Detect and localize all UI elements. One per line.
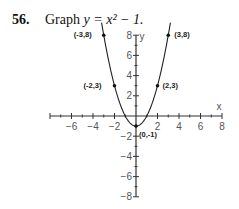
parabola-chart: −6−4−224688642−2−4−6−8xy(-3,8)(3,8)(-2,3… <box>0 0 239 209</box>
point-label: (0,-1) <box>139 130 157 139</box>
y-tick-label: −4 <box>121 151 133 162</box>
x-tick-label: −2 <box>109 121 121 132</box>
y-tick-label: 2 <box>126 90 132 101</box>
x-axis-label: x <box>217 101 222 112</box>
point-label: (2,3) <box>163 81 179 90</box>
x-tick-label: 6 <box>198 121 204 132</box>
x-tick-label: 8 <box>219 121 225 132</box>
data-point <box>113 84 117 88</box>
data-point <box>102 33 106 37</box>
data-point <box>134 124 138 128</box>
data-point <box>156 84 160 88</box>
point-label: (-3,8) <box>74 30 92 39</box>
x-tick-label: 4 <box>176 121 182 132</box>
y-tick-label: −6 <box>121 171 133 182</box>
y-tick-label: 4 <box>126 70 132 81</box>
point-label: (-2,3) <box>84 81 102 90</box>
y-tick-label: −8 <box>121 191 133 202</box>
point-label: (3,8) <box>174 30 190 39</box>
x-tick-label: −6 <box>66 121 78 132</box>
y-axis-label: y <box>140 31 145 42</box>
data-point <box>166 33 170 37</box>
y-tick-label: 6 <box>126 50 132 61</box>
x-tick-label: −4 <box>87 121 99 132</box>
y-tick-label: 8 <box>126 30 132 41</box>
y-tick-label: −2 <box>121 131 133 142</box>
